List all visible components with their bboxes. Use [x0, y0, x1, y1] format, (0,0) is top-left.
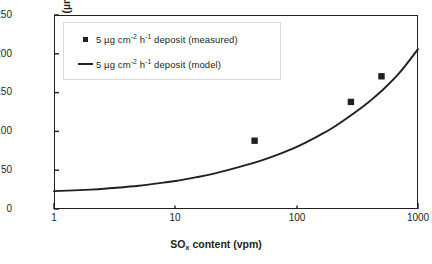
x-tick-label-10: 10 [155, 212, 195, 223]
legend-item-model: 5 µg cm-2 h-1 deposit (model) [74, 56, 221, 72]
legend-line-marker-icon [74, 63, 96, 65]
legend-model-unit2: h [137, 59, 145, 70]
x-axis-title: SOx content (vpm) [0, 238, 432, 252]
legend-model-amount: 5 µg cm [96, 59, 131, 70]
legend-model-tail: deposit (model) [151, 59, 221, 70]
x-tick-label-1000: 1000 [398, 212, 432, 223]
series-measured-markers [251, 73, 384, 144]
x-tick-label-1: 1 [34, 212, 74, 223]
legend-measured-tail: deposit (measured) [151, 34, 237, 45]
chart-figure: 250 200 150 100 50 0 Sound metal loss (µ… [0, 0, 432, 264]
data-point-marker [378, 73, 384, 79]
y-axis-ticks [54, 15, 59, 209]
legend-measured-unit2: h [137, 34, 145, 45]
legend-label-model: 5 µg cm-2 h-1 deposit (model) [96, 58, 221, 70]
data-point-marker [251, 138, 257, 144]
x-axis-ticks [54, 203, 418, 209]
legend-item-measured: 5 µg cm-2 h-1 deposit (measured) [74, 31, 238, 47]
legend-label-measured: 5 µg cm-2 h-1 deposit (measured) [96, 33, 238, 45]
legend-square-marker-icon [74, 37, 96, 42]
legend-measured-amount: 5 µg cm [96, 34, 131, 45]
x-axis-title-base: SO [170, 238, 185, 250]
x-axis-title-rest: content (vpm) [190, 238, 262, 250]
x-tick-label-100: 100 [277, 212, 317, 223]
legend: 5 µg cm-2 h-1 deposit (measured) 5 µg cm… [63, 22, 281, 80]
data-point-marker [348, 99, 354, 105]
